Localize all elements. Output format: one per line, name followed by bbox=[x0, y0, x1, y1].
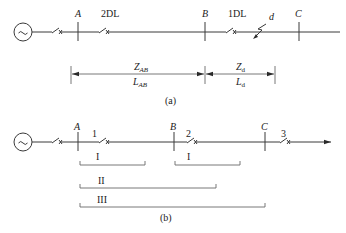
zone-i-a bbox=[80, 161, 145, 165]
breaker-2-label: 2 bbox=[186, 128, 191, 139]
breaker-2dl-label: 2DL bbox=[101, 8, 119, 19]
bus-a-label: A bbox=[73, 121, 81, 132]
breaker-1-icon bbox=[99, 138, 109, 144]
zone-ii-label: II bbox=[98, 175, 105, 186]
generator-icon bbox=[14, 23, 32, 41]
breaker-1dl-icon bbox=[226, 28, 236, 34]
bus-b-label: B bbox=[202, 8, 208, 19]
bus-b-label: B bbox=[170, 121, 176, 132]
bus-c-label: C bbox=[261, 121, 268, 132]
z-d-label: Zd bbox=[236, 61, 246, 74]
bus-c-label: C bbox=[295, 8, 302, 19]
breaker-3-label: 3 bbox=[281, 128, 286, 139]
z-ab-label: ZAB bbox=[134, 61, 149, 74]
breaker-icon bbox=[52, 138, 62, 144]
breaker-1dl-label: 1DL bbox=[228, 8, 246, 19]
diagram-a: A 2DL B 1DL d C bbox=[14, 8, 340, 107]
zone-i-b bbox=[175, 161, 240, 165]
fault-label: d bbox=[269, 11, 275, 22]
generator-icon bbox=[14, 133, 32, 151]
bus-a-label: A bbox=[74, 8, 82, 19]
zone-iii-label: III bbox=[97, 194, 107, 205]
l-d-label: Ld bbox=[235, 76, 246, 89]
zone-i-a-label: I bbox=[96, 151, 99, 162]
caption-a: (a) bbox=[165, 95, 176, 107]
diagram-b: A 1 B 2 C 3 bbox=[14, 121, 331, 224]
zone-iii bbox=[80, 203, 265, 207]
zone-i-b-label: I bbox=[187, 151, 190, 162]
breaker-1-label: 1 bbox=[92, 128, 97, 139]
breaker-icon bbox=[52, 28, 62, 34]
protection-diagram: A 2DL B 1DL d C bbox=[0, 0, 346, 233]
l-ab-label: LAB bbox=[132, 76, 148, 89]
caption-b: (b) bbox=[160, 212, 172, 224]
breaker-2dl-icon bbox=[99, 28, 109, 34]
